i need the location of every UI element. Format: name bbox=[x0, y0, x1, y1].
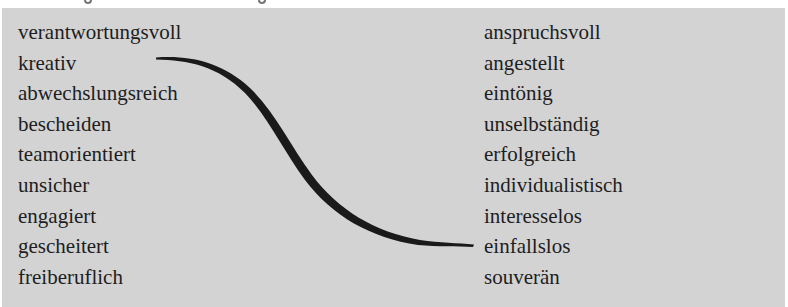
worksheet-page: verantwortungsvoll kreativ abwechslungsr… bbox=[0, 0, 788, 307]
right-word[interactable]: souverän bbox=[484, 262, 623, 293]
right-word-list: anspruchsvoll angestellt eintönig unselb… bbox=[484, 17, 623, 292]
left-word-list: verantwortungsvoll kreativ abwechslungsr… bbox=[18, 17, 181, 292]
left-word[interactable]: bescheiden bbox=[18, 109, 181, 140]
left-word[interactable]: teamorientiert bbox=[18, 139, 181, 170]
right-word[interactable]: anspruchsvoll bbox=[484, 17, 623, 48]
left-word[interactable]: gescheitert bbox=[18, 231, 181, 262]
right-word[interactable]: erfolgreich bbox=[484, 139, 623, 170]
left-word[interactable]: verantwortungsvoll bbox=[18, 17, 181, 48]
right-word[interactable]: unselbständig bbox=[484, 109, 623, 140]
right-word[interactable]: angestellt bbox=[484, 48, 623, 79]
descender-mark bbox=[84, 0, 92, 4]
right-word[interactable]: individualistisch bbox=[484, 170, 623, 201]
left-word[interactable]: freiberuflich bbox=[18, 262, 181, 293]
right-word[interactable]: eintönig bbox=[484, 78, 623, 109]
left-word[interactable]: abwechslungsreich bbox=[18, 78, 181, 109]
left-word[interactable]: engagiert bbox=[18, 201, 181, 232]
right-word[interactable]: interesselos bbox=[484, 201, 623, 232]
left-word[interactable]: unsicher bbox=[18, 170, 181, 201]
right-word[interactable]: einfallslos bbox=[484, 231, 623, 262]
matching-exercise-box: verantwortungsvoll kreativ abwechslungsr… bbox=[2, 8, 785, 307]
left-word[interactable]: kreativ bbox=[18, 48, 181, 79]
clipped-heading-descenders bbox=[0, 0, 788, 8]
descender-mark bbox=[258, 0, 266, 4]
